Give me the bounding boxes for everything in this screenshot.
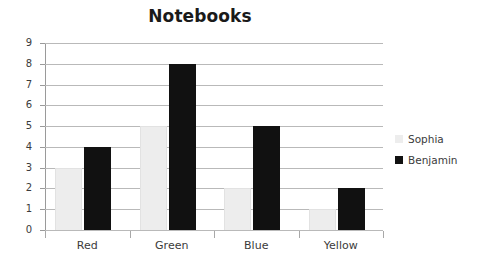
x-axis-tick [214,231,215,238]
y-axis-tick [40,188,45,189]
bar-red-benjamin [84,147,111,230]
y-axis-tick [40,168,45,169]
y-axis-tick [40,85,45,86]
x-axis-tick [45,231,46,238]
y-axis-label: 1 [0,204,32,214]
y-axis-tick [40,209,45,210]
legend-swatch-icon [395,135,403,143]
legend-swatch-icon [395,156,403,164]
y-axis-tick [40,147,45,148]
plot-area [45,43,383,230]
gridline [45,105,383,106]
y-axis-label: 9 [0,38,32,48]
y-axis-tick [40,64,45,65]
legend-label: Sophia [408,133,444,145]
bar-green-sophia [140,126,167,230]
bar-yellow-sophia [309,209,336,230]
x-axis-tick [383,231,384,238]
gridline [45,64,383,65]
bar-red-sophia [55,168,82,230]
gridline [45,85,383,86]
y-axis-label: 6 [0,100,32,110]
x-axis-tick [299,231,300,238]
chart-title: Notebooks [0,6,400,26]
gridline [45,43,383,44]
bar-yellow-benjamin [338,188,365,230]
x-axis-tick [130,231,131,238]
y-axis-label: 5 [0,121,32,131]
y-axis-label: 0 [0,225,32,235]
y-axis-tick [40,43,45,44]
bar-blue-benjamin [253,126,280,230]
y-axis-label: 7 [0,80,32,90]
y-axis-label: 4 [0,142,32,152]
bar-chart: Notebooks 0123456789 RedGreenBlueYellow … [0,0,485,259]
legend-label: Benjamin [408,154,457,166]
x-axis-label-red: Red [42,240,132,251]
x-axis-label-blue: Blue [211,240,301,251]
legend-item-benjamin[interactable]: Benjamin [395,149,457,170]
chart-legend: SophiaBenjamin [395,128,457,170]
bar-blue-sophia [224,188,251,230]
gridline [45,126,383,127]
y-axis-label: 3 [0,163,32,173]
y-axis-tick [40,126,45,127]
y-axis-label: 2 [0,183,32,193]
y-axis-label: 8 [0,59,32,69]
y-axis-tick [40,105,45,106]
legend-item-sophia[interactable]: Sophia [395,128,457,149]
bar-green-benjamin [169,64,196,230]
x-axis-label-green: Green [127,240,217,251]
x-axis-label-yellow: Yellow [296,240,386,251]
